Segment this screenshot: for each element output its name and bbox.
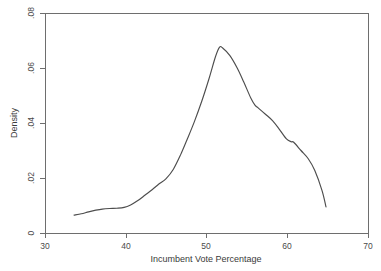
y-tick-label-08: .08 xyxy=(26,7,36,19)
plot-frame xyxy=(45,13,368,233)
y-axis-title: Density xyxy=(9,107,19,138)
x-axis-title: Incumbent Vote Percentage xyxy=(150,254,261,264)
y-axis-ticks xyxy=(40,13,45,233)
frame-rect xyxy=(45,13,368,233)
y-axis-tick-labels: 0 .02 .04 .06 .08 xyxy=(26,7,36,236)
x-tick-label-40: 40 xyxy=(121,241,131,251)
density-curve xyxy=(74,47,326,216)
y-tick-label-02: .02 xyxy=(26,172,36,184)
x-axis-ticks xyxy=(45,233,368,238)
y-tick-label-06: .06 xyxy=(26,62,36,74)
x-axis-tick-labels: 30 40 50 60 70 xyxy=(40,241,373,251)
plot-canvas: 30 40 50 60 70 0 .02 .04 .06 .08 Incumbe… xyxy=(0,0,381,271)
density-plot-figure: 30 40 50 60 70 0 .02 .04 .06 .08 Incumbe… xyxy=(0,0,381,271)
y-tick-label-04: .04 xyxy=(26,117,36,129)
x-tick-label-70: 70 xyxy=(363,241,373,251)
y-tick-label-0: 0 xyxy=(26,230,36,235)
x-tick-label-30: 30 xyxy=(40,241,50,251)
x-tick-label-50: 50 xyxy=(201,241,211,251)
x-tick-label-60: 60 xyxy=(282,241,292,251)
